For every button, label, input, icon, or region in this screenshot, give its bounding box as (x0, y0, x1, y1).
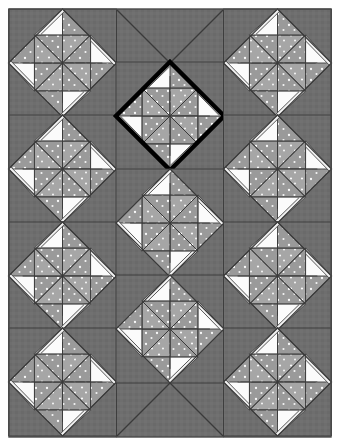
quilt-image (0, 0, 340, 446)
block-L4 (9, 328, 117, 436)
block-C1 (116, 62, 224, 170)
quilt-blocks (9, 9, 332, 436)
block-L1 (9, 9, 117, 117)
quilt-canvas (0, 0, 340, 446)
block-R3 (224, 222, 332, 330)
block-R2 (224, 115, 332, 223)
block-C3 (116, 275, 224, 383)
block-L3 (9, 222, 117, 330)
block-R4 (224, 328, 332, 436)
block-L2 (9, 115, 117, 223)
block-R1 (224, 9, 332, 117)
block-C2 (116, 169, 224, 277)
